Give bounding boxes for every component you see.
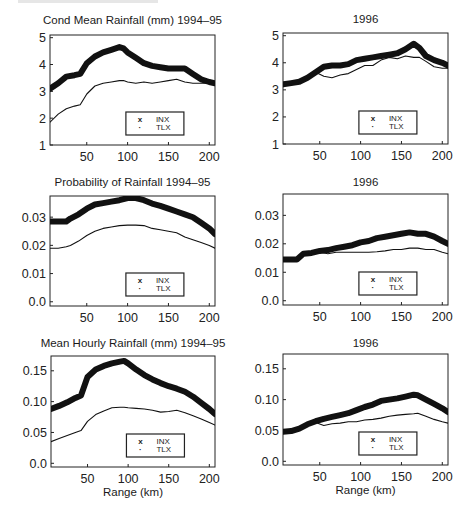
legend: xINX·TLX [359,432,417,455]
x-axis-label: Range (km) [283,484,448,496]
legend-marker-icon: · [372,443,375,452]
plot-area: 0.00.050.100.1550100150200xINX·TLX [0,0,471,514]
y-tick-label: 0.05 [255,424,279,438]
y-tick-label: 0.15 [255,362,279,376]
x-tick-label: 100 [350,470,371,484]
series-inx-line [283,395,448,432]
y-tick-label: 0.0 [262,455,279,469]
y-tick-label: 0.10 [255,393,279,407]
legend-label: TLX [389,443,404,452]
x-tick-label: 200 [432,470,453,484]
x-tick-label: 150 [391,470,412,484]
x-tick-label: 50 [313,470,327,484]
